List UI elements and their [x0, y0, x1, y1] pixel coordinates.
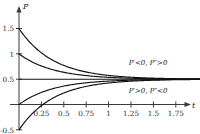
annotation-above-equilibrium: P′<0, P″>0	[128, 59, 168, 67]
x-tick-label-1.5: 1.5	[148, 109, 160, 118]
y-tick-label-1: 1	[9, 50, 14, 59]
solution-curve	[19, 29, 200, 79]
y-tick-label-1.5: 1.5	[3, 24, 15, 33]
y-axis-arrowhead	[16, 6, 21, 13]
annotation-below-equilibrium: P′>0, P″<0	[128, 87, 168, 95]
x-tick-label-1.25: 1.25	[123, 109, 139, 118]
x-tick-label-0.75: 0.75	[78, 109, 94, 118]
plot-svg: P t 1.5 1 0.5 -0.5 0.25 0.5 0.75 1 1.25 …	[0, 0, 200, 134]
x-tick-label-1.75: 1.75	[168, 109, 184, 118]
x-tick-label-0.5: 0.5	[58, 109, 70, 118]
x-axis-label: t	[192, 101, 196, 110]
x-tick-label-1: 1	[106, 109, 111, 118]
x-axis-arrowhead	[185, 102, 192, 107]
y-tick-label-0.5: 0.5	[3, 75, 15, 84]
solution-curves-figure: P t 1.5 1 0.5 -0.5 0.25 0.5 0.75 1 1.25 …	[0, 0, 200, 134]
y-axis-label: P	[22, 2, 29, 11]
y-tick-label--0.5: -0.5	[0, 126, 14, 134]
